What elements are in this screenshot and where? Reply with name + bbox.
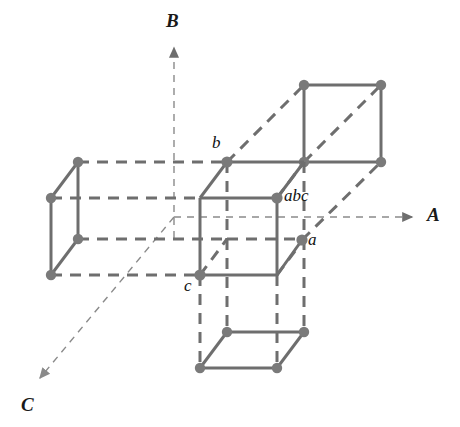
central-cell-hidden-edge-diag-bl	[200, 239, 227, 275]
lower-cell-edge-left	[200, 332, 227, 368]
left-cell-edge-diag-bottom	[51, 239, 78, 275]
vertex-label-abc: abc	[284, 186, 309, 206]
lower-cell-vertex	[222, 327, 232, 337]
left-cell-edge-diag-top	[51, 162, 78, 198]
left-cell-vertex	[73, 157, 83, 167]
axis-label-c: C	[21, 394, 34, 416]
figure-canvas: B A C b abc a c	[0, 0, 460, 427]
lattice-diagram-svg	[0, 0, 460, 427]
upper-right-cell-dash-diag2	[227, 85, 304, 162]
upper-right-cell-vertex	[299, 80, 309, 90]
lower-cell-vertex	[299, 327, 309, 337]
upper-right-cell-dash-diag3	[304, 85, 381, 162]
upper-right-cell-vertex	[376, 157, 386, 167]
lower-cell-vertex	[195, 363, 205, 373]
left-cell-vertex	[46, 193, 56, 203]
vertex-c	[194, 269, 205, 280]
left-cell-vertex	[73, 234, 83, 244]
vertex-label-c: c	[184, 276, 192, 296]
left-cell-vertex	[46, 270, 56, 280]
axis-c-line	[40, 217, 174, 378]
vertex-label-b: b	[212, 133, 221, 153]
lower-cell-vertex	[272, 363, 282, 373]
central-cell-edge-right-diag-a	[277, 240, 302, 275]
vertex-abc	[271, 192, 282, 203]
vertex-label-a: a	[308, 230, 317, 250]
upper-right-cell-vertex	[376, 80, 386, 90]
vertex-b	[221, 156, 232, 167]
central-cell-edge-diag-tl	[200, 162, 227, 198]
axis-label-b: B	[166, 10, 179, 32]
vertex-a	[296, 234, 307, 245]
lower-cell-edge-right	[277, 332, 304, 368]
upper-right-cell-group	[227, 80, 386, 240]
axis-label-a: A	[427, 204, 440, 226]
central-cell-group	[194, 156, 307, 280]
upper-right-cell-dash-diag4	[302, 162, 381, 240]
